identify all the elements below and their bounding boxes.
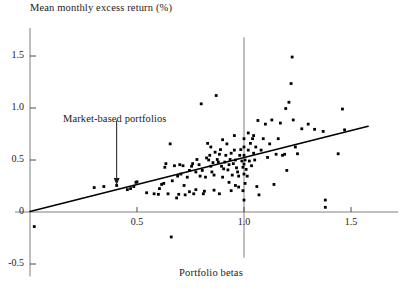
data-point <box>209 165 212 168</box>
data-point <box>313 128 316 131</box>
data-point <box>209 146 212 149</box>
data-point <box>186 176 189 179</box>
annotation-arrow-head <box>114 178 120 185</box>
data-point <box>164 162 167 165</box>
data-point <box>177 193 180 196</box>
data-point <box>243 163 246 166</box>
data-point <box>182 164 185 167</box>
data-point <box>176 175 179 178</box>
data-point <box>273 183 276 186</box>
data-point <box>222 167 225 170</box>
data-point <box>277 137 280 140</box>
data-point <box>231 174 234 177</box>
annotation-arrow <box>114 120 120 184</box>
data-point <box>251 137 254 140</box>
data-point <box>244 182 247 185</box>
scatter-chart-figure: Mean monthly excess return (%) Portfolio… <box>0 0 404 295</box>
data-point <box>183 184 186 187</box>
data-point <box>221 176 224 179</box>
data-point <box>132 185 135 188</box>
tick-marks-group <box>30 56 351 264</box>
data-point <box>237 175 240 178</box>
data-point <box>237 186 240 189</box>
y-tick-label: 0 <box>0 205 24 216</box>
data-point <box>243 199 246 202</box>
data-point <box>212 161 215 164</box>
data-point <box>242 189 245 192</box>
data-point <box>202 192 205 195</box>
x-tick-label: 1.5 <box>334 216 368 227</box>
data-point <box>296 152 299 155</box>
data-point <box>243 154 246 157</box>
data-point <box>249 142 252 145</box>
data-point <box>227 168 230 171</box>
data-point <box>215 94 218 97</box>
data-point <box>190 165 193 168</box>
data-point <box>247 132 250 135</box>
data-point <box>213 174 216 177</box>
y-tick-label: 1.5 <box>0 49 24 60</box>
data-point <box>292 119 295 122</box>
data-point <box>260 149 263 152</box>
y-tick-label: -0.5 <box>0 257 24 268</box>
data-point <box>248 160 251 163</box>
data-point <box>255 185 258 188</box>
data-point <box>214 151 217 154</box>
data-point <box>294 146 297 149</box>
data-point <box>213 189 216 192</box>
data-point <box>337 152 340 155</box>
data-point <box>307 123 310 126</box>
data-point <box>199 175 202 178</box>
x-tick-label: 0.5 <box>120 216 154 227</box>
data-point <box>145 191 148 194</box>
security-market-line <box>30 126 368 211</box>
data-point <box>238 154 241 157</box>
data-point <box>270 119 273 122</box>
data-point <box>275 153 278 156</box>
data-point <box>244 159 247 162</box>
data-point <box>254 146 257 149</box>
data-point <box>158 187 161 190</box>
data-point <box>243 137 246 140</box>
data-point <box>268 142 271 145</box>
y-tick-label: 0.5 <box>0 153 24 164</box>
data-point <box>239 148 242 151</box>
data-point <box>162 182 165 185</box>
data-point <box>198 163 201 166</box>
data-point <box>221 138 224 141</box>
data-point <box>93 186 96 189</box>
data-point <box>247 149 250 152</box>
data-point <box>203 190 206 193</box>
data-point <box>217 161 220 164</box>
data-point <box>228 163 231 166</box>
data-point <box>167 192 170 195</box>
data-point <box>322 130 325 133</box>
data-point <box>279 122 282 125</box>
data-point <box>233 149 236 152</box>
data-point <box>207 159 210 162</box>
data-point <box>236 171 239 174</box>
data-point <box>173 164 176 167</box>
data-point <box>240 160 243 163</box>
data-point <box>170 236 173 239</box>
data-point <box>153 192 156 195</box>
data-point <box>206 142 209 145</box>
data-point <box>219 148 222 151</box>
data-point <box>194 171 197 174</box>
data-point <box>194 188 197 191</box>
data-point <box>184 193 187 196</box>
data-point <box>291 56 294 59</box>
data-point <box>264 123 267 126</box>
y-tick-label: 1.0 <box>0 101 24 112</box>
data-point <box>243 173 246 176</box>
data-point <box>230 152 233 155</box>
data-point <box>285 169 288 172</box>
data-point <box>218 192 221 195</box>
data-point <box>218 153 221 156</box>
data-point <box>204 176 207 179</box>
axes-group <box>15 28 398 277</box>
data-point <box>258 193 261 196</box>
data-point <box>262 137 265 140</box>
data-point <box>288 101 291 104</box>
data-point <box>192 192 195 195</box>
